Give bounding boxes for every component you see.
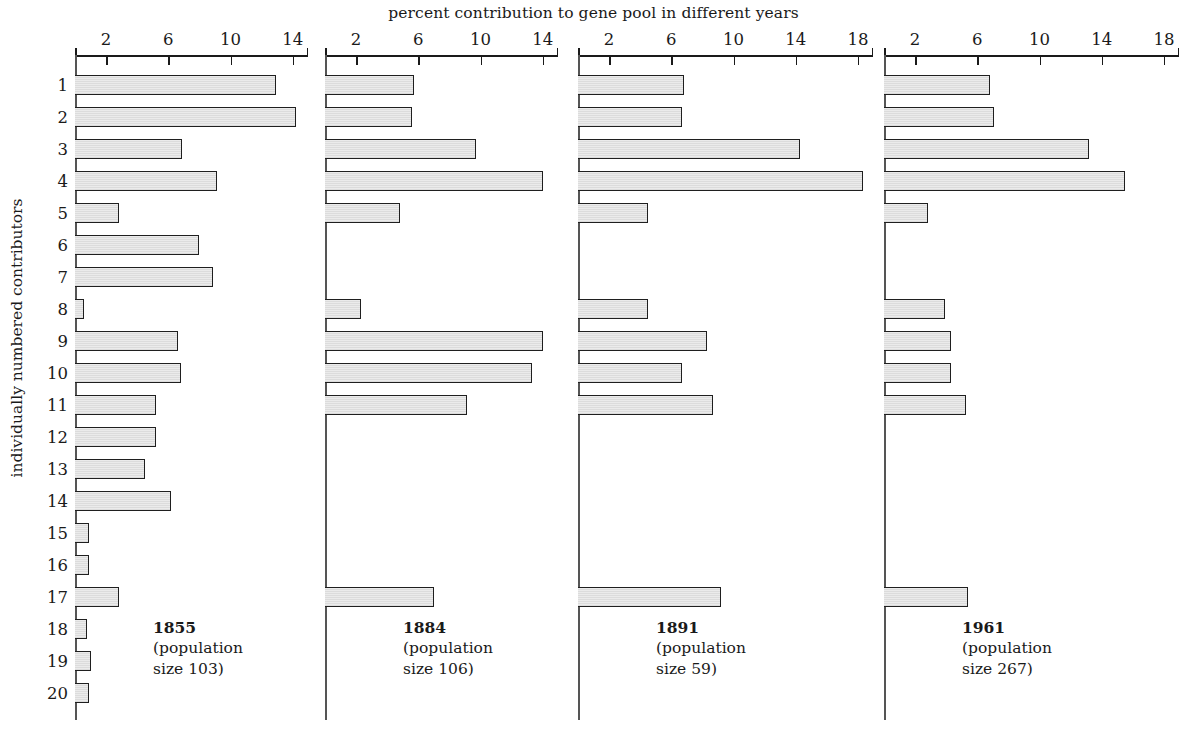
- x-axis-tick: [1164, 56, 1166, 65]
- x-axis-tick-label: 10: [1029, 30, 1050, 49]
- panel-population-line2: size 106): [403, 659, 493, 679]
- bar-contributor-17: [884, 587, 968, 607]
- bar-contributor-9: [75, 331, 178, 351]
- bar-contributor-17: [325, 587, 434, 607]
- x-axis-tick-label: 14: [785, 30, 806, 49]
- x-axis-tick: [543, 56, 545, 65]
- x-axis-tick: [231, 56, 233, 65]
- x-axis-line: [325, 55, 558, 57]
- category-label: 6: [58, 230, 69, 262]
- x-axis-tick-label: 14: [532, 30, 553, 49]
- category-label: 4: [58, 166, 69, 198]
- panel-caption-1855: 1855(populationsize 103): [153, 618, 243, 679]
- x-axis-tick: [1040, 56, 1042, 65]
- bar-contributor-11: [325, 395, 467, 415]
- x-axis-tick-label: 2: [910, 30, 921, 49]
- bar-contributor-8: [884, 299, 945, 319]
- panel-population-line2: size 59): [656, 659, 746, 679]
- x-axis-line: [884, 55, 1179, 57]
- panel-population-line1: (population: [153, 638, 243, 658]
- chart-panel-1884: 2610141884(populationsize 106): [325, 30, 598, 730]
- category-label: 7: [58, 262, 69, 294]
- category-label: 11: [47, 390, 68, 422]
- x-axis-tick: [1102, 56, 1104, 65]
- bar-contributor-3: [325, 139, 476, 159]
- bar-contributor-19: [75, 651, 91, 671]
- panel-caption-1961: 1961(populationsize 267): [962, 618, 1052, 679]
- x-axis-tick-label: 10: [220, 30, 241, 49]
- bar-contributor-18: [75, 619, 87, 639]
- panel-year: 1961: [962, 618, 1052, 638]
- x-axis-tick-label: 6: [666, 30, 677, 49]
- bar-contributor-2: [884, 107, 994, 127]
- category-label: 1: [58, 70, 69, 102]
- category-label: 5: [58, 198, 69, 230]
- x-axis-tick: [356, 56, 358, 65]
- bar-contributor-9: [884, 331, 951, 351]
- x-axis-tick-label: 6: [972, 30, 983, 49]
- x-axis-tick-label: 6: [163, 30, 174, 49]
- category-label: 10: [47, 358, 68, 390]
- panel-population-line2: size 267): [962, 659, 1052, 679]
- category-label: 13: [47, 454, 68, 486]
- bar-contributor-3: [884, 139, 1089, 159]
- panel-year: 1891: [656, 618, 746, 638]
- bar-contributor-1: [75, 75, 276, 95]
- bar-contributor-4: [578, 171, 863, 191]
- category-label: 2: [58, 102, 69, 134]
- bar-contributor-4: [325, 171, 543, 191]
- bar-contributor-11: [75, 395, 156, 415]
- x-axis-tick-label: 18: [1153, 30, 1174, 49]
- bar-contributor-17: [578, 587, 721, 607]
- bar-contributor-9: [325, 331, 543, 351]
- bar-contributor-14: [75, 491, 171, 511]
- chart-panel-1961: 261014181961(populationsize 267): [884, 30, 1187, 730]
- x-axis-line: [578, 55, 873, 57]
- x-axis-end-cap: [307, 48, 309, 56]
- category-label: 17: [47, 582, 68, 614]
- category-label: 15: [47, 518, 68, 550]
- x-axis-tick-labels: 26101418: [884, 30, 1187, 52]
- x-axis-tick: [796, 56, 798, 65]
- x-axis-tick: [106, 56, 108, 65]
- bar-contributor-13: [75, 459, 145, 479]
- bar-contributor-15: [75, 523, 89, 543]
- bar-contributor-8: [75, 299, 84, 319]
- category-label: 3: [58, 134, 69, 166]
- panel-population-line1: (population: [656, 638, 746, 658]
- bar-contributor-8: [578, 299, 648, 319]
- x-axis-tick-label: 14: [1091, 30, 1112, 49]
- bar-contributor-4: [884, 171, 1125, 191]
- x-axis-end-cap: [872, 48, 874, 56]
- y-axis-label-text: individually numbered contributors: [8, 199, 26, 478]
- panel-caption-1891: 1891(populationsize 59): [656, 618, 746, 679]
- bar-contributor-3: [578, 139, 800, 159]
- bar-contributor-5: [578, 203, 648, 223]
- panel-population-line2: size 103): [153, 659, 243, 679]
- bar-contributor-16: [75, 555, 89, 575]
- bar-contributor-8: [325, 299, 361, 319]
- x-axis-tick: [671, 56, 673, 65]
- category-label: 9: [58, 326, 69, 358]
- bar-contributor-2: [578, 107, 682, 127]
- chart-panel-1891: 261014181891(populationsize 59): [578, 30, 913, 730]
- bar-contributor-10: [325, 363, 532, 383]
- bar-contributor-1: [578, 75, 684, 95]
- x-axis-tick: [609, 56, 611, 65]
- x-axis-tick-label: 10: [470, 30, 491, 49]
- chart-panel-1855: 2610141855(populationsize 103): [75, 30, 348, 730]
- chart-title: percent contribution to gene pool in dif…: [0, 4, 1187, 22]
- bar-contributor-4: [75, 171, 217, 191]
- x-axis-tick-label: 6: [413, 30, 424, 49]
- bar-contributor-6: [75, 235, 199, 255]
- x-axis-tick-label: 14: [282, 30, 303, 49]
- bar-contributor-12: [75, 427, 156, 447]
- x-axis-line: [75, 55, 308, 57]
- x-axis-end-cap: [1178, 48, 1180, 56]
- x-axis-tick: [858, 56, 860, 65]
- x-axis-tick-label: 2: [351, 30, 362, 49]
- panel-population-line1: (population: [403, 638, 493, 658]
- x-axis-tick: [293, 56, 295, 65]
- bar-contributor-7: [75, 267, 213, 287]
- bar-contributor-5: [325, 203, 400, 223]
